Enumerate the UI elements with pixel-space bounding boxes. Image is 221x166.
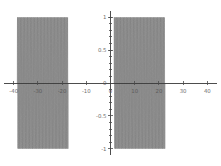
y-tick-label: 0 (103, 80, 107, 86)
x-tick-label: -10 (82, 88, 91, 94)
x-tick-label: 20 (155, 88, 162, 94)
y-tick-label: -0.5 (96, 113, 107, 119)
x-tick-label: 30 (180, 88, 187, 94)
x-tick-label: 10 (131, 88, 138, 94)
chart-canvas: -40-30-20-10010203040-1-0.500.51 (0, 0, 221, 166)
x-tick-label: -30 (33, 88, 42, 94)
x-tick-label: -20 (58, 88, 67, 94)
x-tick-label: -40 (9, 88, 18, 94)
x-tick-label: 40 (204, 88, 211, 94)
y-tick-label: 0.5 (98, 47, 107, 53)
chart-figure: -40-30-20-10010203040-1-0.500.51 (0, 0, 221, 166)
y-tick-label: 1 (103, 14, 106, 20)
y-tick-label: -1 (101, 146, 106, 152)
x-tick-label: 0 (109, 88, 113, 94)
